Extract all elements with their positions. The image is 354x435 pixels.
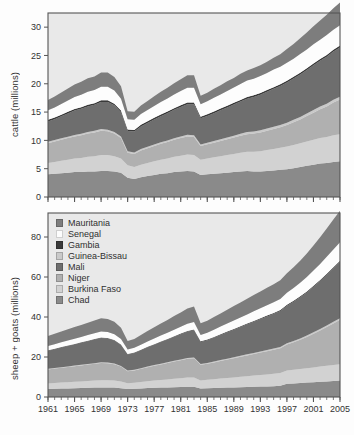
legend-swatch-mauritania — [56, 219, 63, 227]
legend-swatch-mali — [56, 263, 63, 271]
y-tick-label: 40 — [31, 312, 41, 322]
y-tick-label: 25 — [31, 51, 41, 61]
x-tick-label: 1965 — [65, 404, 85, 414]
y-tick-label: 5 — [36, 164, 41, 174]
legend-swatch-guinea-bissau — [56, 252, 63, 260]
x-tick-label: 1989 — [224, 404, 244, 414]
x-tick-label: 1961 — [38, 404, 58, 414]
y-tick-label: 80 — [31, 232, 41, 242]
livestock-figure: cattle (millions) 051015202530 sheep + g… — [0, 0, 354, 435]
legend-label: Burkina Faso — [68, 284, 121, 294]
legend-label: Gambia — [68, 240, 100, 250]
x-tick-label: 2001 — [303, 404, 323, 414]
legend-label: Chad — [68, 295, 90, 305]
y-tick-label: 15 — [31, 107, 41, 117]
legend-label: Mauritania — [68, 218, 110, 228]
y-tick-label: 0 — [36, 192, 41, 202]
x-tick-label: 2005 — [330, 404, 350, 414]
x-tick-label: 1969 — [91, 404, 111, 414]
legend-item: Niger — [56, 272, 168, 283]
x-tick-label: 1993 — [250, 404, 270, 414]
x-tick-label: 1997 — [277, 404, 297, 414]
legend-label: Guinea-Bissau — [68, 251, 127, 261]
legend-swatch-burkina-faso — [56, 285, 63, 293]
legend-label: Mali — [68, 262, 85, 272]
cattle-panel: cattle (millions) 051015202530 — [0, 0, 354, 215]
legend-swatch-gambia — [56, 241, 63, 249]
x-tick-label: 1977 — [144, 404, 164, 414]
legend-item: Mauritania — [56, 217, 168, 228]
legend-label: Niger — [68, 273, 90, 283]
legend-swatch-chad — [56, 296, 63, 304]
cattle-plot: 051015202530 — [0, 0, 354, 215]
x-tick-label: 1973 — [118, 404, 138, 414]
legend-item: Gambia — [56, 239, 168, 250]
y-tick-label: 10 — [31, 136, 41, 146]
legend-swatch-niger — [56, 274, 63, 282]
legend-item: Burkina Faso — [56, 284, 168, 295]
sheep-goats-plot: 0204060801961196519691973197719811985198… — [0, 205, 354, 435]
sheep-goats-panel: sheep + goats (millions) 020406080196119… — [0, 205, 354, 435]
legend-item: Mali — [56, 261, 168, 272]
legend-swatch-senegal — [56, 230, 63, 238]
y-tick-label: 0 — [36, 392, 41, 402]
legend-item: Chad — [56, 295, 168, 306]
legend-item: Guinea-Bissau — [56, 250, 168, 261]
legend: MauritaniaSenegalGambiaGuinea-BissauMali… — [56, 215, 168, 308]
y-tick-label: 60 — [31, 272, 41, 282]
y-tick-label: 20 — [31, 79, 41, 89]
y-tick-label: 30 — [31, 22, 41, 32]
legend-item: Senegal — [56, 228, 168, 239]
x-tick-label: 1985 — [197, 404, 217, 414]
legend-label: Senegal — [68, 229, 101, 239]
y-tick-label: 20 — [31, 352, 41, 362]
x-tick-label: 1981 — [171, 404, 191, 414]
